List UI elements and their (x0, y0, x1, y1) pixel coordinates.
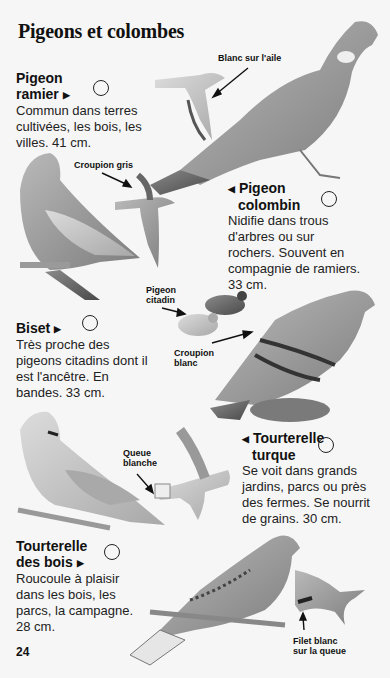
annotation-blanc-sur-aile: Blanc sur l'aile (218, 53, 281, 63)
annotation-filet-blanc: Filet blanc sur la queue (293, 636, 346, 656)
pointer-left-icon: ◀ (242, 434, 249, 444)
pointer-left-icon: ◀ (228, 184, 235, 194)
species-name: Tourterelle (16, 538, 176, 554)
checkbox-circle-pigeon-colombin[interactable] (321, 191, 337, 207)
checkbox-circle-tourterelle-turque[interactable] (318, 437, 334, 453)
species-description: Roucoule à plaisir dans les bois, les pa… (16, 571, 176, 635)
checkbox-circle-tourterelle-des-bois[interactable] (104, 544, 120, 560)
species-description: Commun dans terres cultivées, les bois, … (16, 103, 186, 151)
species-name-line2: colombin (228, 197, 388, 213)
checkbox-circle-biset[interactable] (82, 315, 98, 331)
page-number: 24 (16, 645, 29, 659)
entry-tourterelle-des-bois: Tourterelle des bois ▶ Roucoule à plaisi… (16, 538, 176, 635)
entry-biset: Biset ▶ Très proche des pigeons citadins… (16, 320, 176, 401)
pointer-right-icon: ▶ (77, 558, 84, 568)
species-description: Nidifie dans trous d'arbres ou sur roche… (228, 213, 388, 293)
species-name: ◀ Tourterelle (242, 430, 390, 447)
checkbox-circle-pigeon-ramier[interactable] (93, 80, 109, 96)
field-guide-page: Pigeons et colombes Pigeon ramier ▶ Comm… (0, 0, 390, 678)
entry-tourterelle-turque: ◀ Tourterelle turque Se voit dans grands… (242, 430, 390, 527)
city-pigeons-illustration (178, 291, 247, 336)
annotation-pigeon-citadin: Pigeon citadin (146, 285, 176, 305)
species-name-line2: turque (242, 447, 390, 463)
annotation-croupion-blanc: Croupion blanc (174, 348, 214, 368)
turtle-dove-flying-illustration (295, 570, 365, 625)
stock-dove-perched-illustration (20, 153, 140, 300)
annotation-croupion-gris: Croupion gris (74, 160, 133, 170)
pointer-right-icon: ▶ (54, 324, 61, 334)
species-name: ◀ Pigeon (228, 180, 388, 197)
annotation-queue-blanche: Queue blanche (123, 448, 157, 468)
species-name-line2: des bois ▶ (16, 554, 176, 571)
collared-dove-flying-illustration (155, 430, 230, 520)
pointer-right-icon: ▶ (63, 90, 70, 100)
species-description: Se voit dans grands jardins, parcs ou pr… (242, 463, 390, 527)
entry-pigeon-colombin: ◀ Pigeon colombin Nidifie dans trous d'a… (228, 180, 388, 293)
collared-dove-perched-illustration (18, 412, 165, 528)
species-description: Très proche des pigeons citadins dont il… (16, 337, 176, 401)
page-title: Pigeons et colombes (18, 20, 184, 43)
